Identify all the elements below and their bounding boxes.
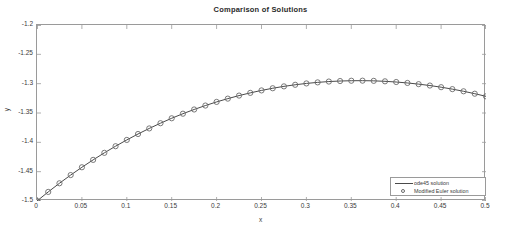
chart-title: Comparison of Solutions xyxy=(36,5,485,14)
y-tick-label: -1.2 xyxy=(3,20,33,27)
x-tick-label: 0 xyxy=(16,202,56,209)
x-tick-label: 0.35 xyxy=(330,202,370,209)
x-tick-label: 0.15 xyxy=(151,202,191,209)
y-tick-label: -1.35 xyxy=(3,108,33,115)
figure-canvas: Comparison of Solutions y -1.2-1.25-1.3-… xyxy=(0,0,512,245)
chart-legend: ode45 solution Modified Euler solution xyxy=(390,177,486,196)
legend-label-modified-euler: Modified Euler solution xyxy=(414,188,469,195)
plot-svg xyxy=(37,25,486,201)
x-tick-label: 0.1 xyxy=(106,202,146,209)
x-tick-label: 0.25 xyxy=(241,202,281,209)
x-tick-label: 0.2 xyxy=(196,202,236,209)
x-tick-label: 0.5 xyxy=(465,202,505,209)
y-tick-label: -1.45 xyxy=(3,167,33,174)
legend-circle-marker-icon xyxy=(394,188,414,195)
x-axis-label: x xyxy=(36,216,485,223)
x-tick-label: 0.45 xyxy=(420,202,460,209)
legend-item-modified-euler: Modified Euler solution xyxy=(394,188,482,195)
legend-line-swatch-icon xyxy=(394,180,414,187)
y-tick-label: -1.3 xyxy=(3,79,33,86)
legend-label-ode45: ode45 solution xyxy=(414,180,449,187)
x-axis-tick-labels: 00.050.10.150.20.250.30.350.40.450.5 xyxy=(36,202,485,214)
y-tick-label: -1.4 xyxy=(3,137,33,144)
plot-area xyxy=(36,24,485,200)
y-tick-label: -1.25 xyxy=(3,49,33,56)
x-tick-label: 0.3 xyxy=(285,202,325,209)
axis-tick-marks xyxy=(37,25,486,201)
x-tick-label: 0.4 xyxy=(375,202,415,209)
x-tick-label: 0.05 xyxy=(61,202,101,209)
y-axis-tick-labels: -1.2-1.25-1.3-1.35-1.4-1.45-1.5 xyxy=(0,24,33,200)
legend-item-ode45: ode45 solution xyxy=(394,180,482,187)
